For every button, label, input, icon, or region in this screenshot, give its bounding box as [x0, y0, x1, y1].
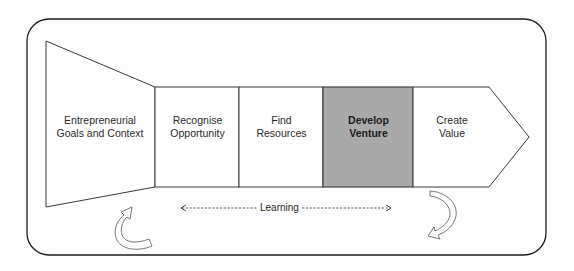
- stage-find-label: Find Resources: [240, 112, 323, 142]
- curved-arrow-right-icon: [428, 191, 456, 239]
- stage-create-label: Create Value: [414, 112, 490, 142]
- diagram-canvas: Entrepreneurial Goals and Context Recogn…: [0, 0, 574, 271]
- stage-develop-label: Develop Venture: [324, 112, 413, 142]
- stage-goals-label: Entrepreneurial Goals and Context: [46, 112, 154, 142]
- learning-label: Learning: [259, 202, 300, 214]
- curved-arrow-left-icon: [115, 207, 152, 249]
- stage-recognise-label: Recognise Opportunity: [156, 112, 239, 142]
